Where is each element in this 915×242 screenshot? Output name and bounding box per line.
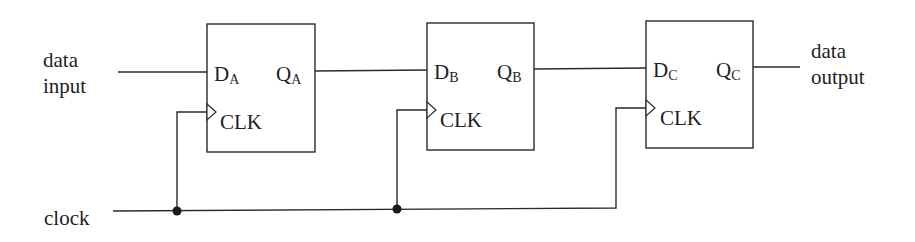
clock-bus-wire [113, 108, 646, 211]
flipflop-c: DC QC CLK [646, 21, 753, 148]
flipflop-c-clk-pin: CLK [660, 106, 702, 130]
junction-dot-b [393, 205, 402, 214]
clock-label: clock [44, 206, 90, 230]
data-input-label-line1: data [43, 48, 79, 72]
junction-dot-a [173, 207, 182, 216]
flipflop-b: DB QB CLK [427, 23, 534, 150]
data-output-label-line2: output [811, 65, 865, 89]
flipflop-a: DA QA CLK [207, 24, 315, 152]
data-input-label-line2: input [43, 74, 86, 98]
flipflop-a-clk-pin: CLK [220, 110, 262, 134]
qa-to-db-wire [315, 70, 427, 71]
qb-to-dc-wire [534, 68, 646, 69]
clock-branch-a-wire [177, 112, 207, 211]
data-output-label-line1: data [811, 39, 847, 63]
clock-branch-b-wire [397, 110, 427, 210]
flipflop-b-clk-pin: CLK [440, 108, 482, 132]
shift-register-diagram: data input clock DA QA CLK DB QB CLK DC … [0, 0, 915, 242]
